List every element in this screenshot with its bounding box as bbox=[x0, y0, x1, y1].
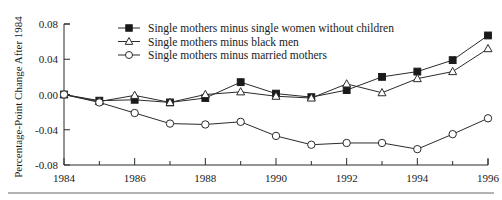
y-tick-label: 0.00 bbox=[39, 89, 59, 101]
marker-filled-square bbox=[485, 32, 492, 39]
marker-open-circle bbox=[125, 51, 132, 58]
marker-open-circle bbox=[237, 118, 244, 125]
marker-filled-square bbox=[449, 57, 456, 64]
y-axis-label: Percentage-Point Change After 1984 bbox=[12, 16, 24, 178]
marker-open-triangle bbox=[343, 80, 351, 87]
marker-open-circle bbox=[131, 109, 138, 116]
y-tick-label: 0.04 bbox=[39, 53, 59, 65]
line-chart: Percentage-Point Change After 1984 0.080… bbox=[0, 0, 502, 200]
marker-open-circle bbox=[60, 91, 67, 98]
marker-filled-square bbox=[126, 25, 132, 31]
marker-open-circle bbox=[202, 121, 209, 128]
marker-open-triangle bbox=[484, 44, 492, 51]
marker-open-circle bbox=[378, 139, 385, 146]
marker-open-triangle bbox=[449, 67, 457, 74]
legend-item: Single mothers minus single women withou… bbox=[118, 22, 394, 35]
chart-figure: Percentage-Point Change After 1984 0.080… bbox=[0, 0, 502, 200]
legend-item: Single mothers minus black men bbox=[118, 36, 299, 49]
marker-open-circle bbox=[308, 141, 315, 148]
marker-open-circle bbox=[272, 132, 279, 139]
x-tick-label: 1990 bbox=[265, 172, 288, 184]
marker-filled-square bbox=[379, 73, 386, 80]
y-tick-label: 0.08 bbox=[39, 18, 59, 30]
marker-open-triangle bbox=[125, 38, 133, 45]
marker-open-circle bbox=[96, 99, 103, 106]
marker-open-circle bbox=[449, 130, 456, 137]
y-axis-label-text: Percentage-Point Change After 1984 bbox=[12, 16, 24, 178]
chart-legend: Single mothers minus single women withou… bbox=[118, 22, 394, 62]
x-tick-label: 1984 bbox=[53, 172, 76, 184]
marker-filled-square bbox=[343, 87, 350, 94]
x-tick-label: 1986 bbox=[124, 172, 147, 184]
x-axis-ticks: 1984198619881990199219941996 bbox=[53, 158, 500, 184]
series-line-path bbox=[64, 95, 488, 150]
y-tick-label: -0.08 bbox=[35, 159, 58, 171]
legend-label: Single mothers minus black men bbox=[148, 36, 299, 49]
marker-open-circle bbox=[484, 115, 491, 122]
y-tick-label: -0.04 bbox=[35, 124, 58, 136]
marker-filled-square bbox=[237, 79, 244, 86]
marker-open-circle bbox=[414, 145, 421, 152]
marker-open-circle bbox=[166, 120, 173, 127]
x-tick-label: 1992 bbox=[336, 172, 358, 184]
marker-open-triangle bbox=[237, 88, 245, 95]
x-tick-label: 1988 bbox=[194, 172, 217, 184]
marker-open-circle bbox=[343, 139, 350, 146]
x-tick-label: 1994 bbox=[406, 172, 429, 184]
marker-open-triangle bbox=[131, 91, 139, 98]
legend-label: Single mothers minus single women withou… bbox=[148, 22, 394, 35]
x-tick-label: 1996 bbox=[477, 172, 500, 184]
legend-label: Single mothers minus married mothers bbox=[148, 49, 327, 62]
legend-item: Single mothers minus married mothers bbox=[118, 49, 327, 62]
